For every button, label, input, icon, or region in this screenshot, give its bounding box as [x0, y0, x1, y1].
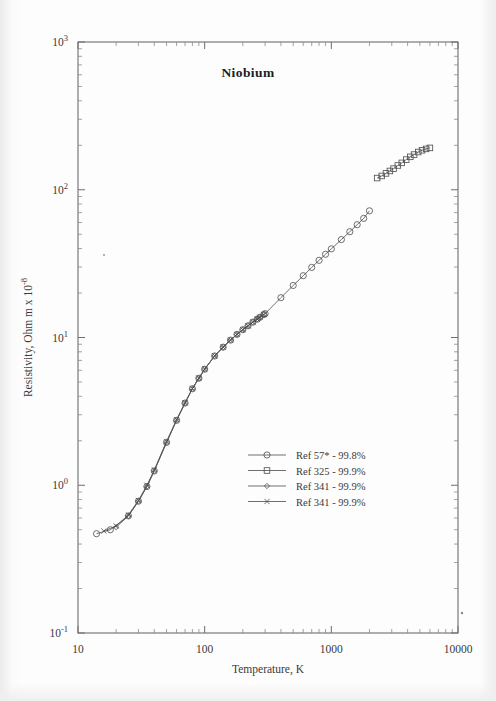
scan-speck	[461, 612, 463, 614]
series-line-2	[116, 315, 264, 528]
x-tick-label: 100	[196, 643, 214, 655]
legend-label-0: Ref 57* - 99.8%	[296, 450, 366, 461]
y-tick-label: 103	[52, 33, 68, 48]
y-tick-label: 101	[52, 329, 68, 344]
x-tick-label: 10	[72, 643, 84, 655]
legend-label-2: Ref 341 - 99.9%	[296, 481, 366, 492]
legend-label-1: Ref 325 - 99.9%	[296, 466, 366, 477]
chart-title: Niobium	[221, 65, 274, 80]
plot-frame	[78, 42, 458, 633]
legend-label-3: Ref 341 - 99.9%	[296, 497, 366, 508]
y-tick-label: 10-1	[49, 624, 68, 639]
series-line-3	[104, 315, 264, 531]
series-marker-0	[366, 208, 372, 214]
x-tick-label: 1000	[320, 643, 343, 655]
x-axis-label: Temperature, K	[232, 663, 305, 676]
series-line-1	[377, 148, 430, 178]
y-tick-label: 102	[52, 181, 68, 196]
x-tick-label: 10000	[444, 643, 473, 655]
resistivity-chart: 1010010001000010-1100101102103Temperatur…	[0, 0, 496, 701]
y-axis-label: Resistivity, Ohm m x 10-8	[19, 278, 35, 397]
y-tick-label: 100	[52, 476, 68, 491]
scan-speck	[103, 254, 105, 256]
